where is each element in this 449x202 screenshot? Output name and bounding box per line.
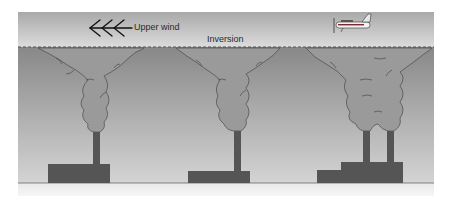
diagram-canvas [0,0,449,202]
inversion-label: Inversion [207,34,244,44]
ground [18,183,434,196]
upper-wind-label: Upper wind [134,22,180,32]
